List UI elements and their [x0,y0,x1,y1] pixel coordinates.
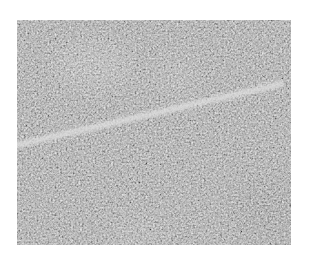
noisy-streak-photo [17,20,291,245]
image-canvas [0,0,309,266]
grain-overlay [17,20,291,245]
